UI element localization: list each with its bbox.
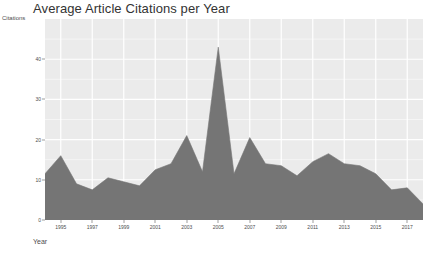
x-tick-mark — [281, 220, 282, 223]
plot-area — [45, 19, 423, 220]
y-tick-mark — [42, 139, 45, 140]
chart-figure: Average Article Citations per Year Citat… — [0, 0, 432, 259]
x-tick-mark — [218, 220, 219, 223]
x-tick-mark — [407, 220, 408, 223]
x-tick-label: 1995 — [55, 225, 66, 230]
x-axis-label: Year — [33, 238, 47, 245]
x-tick-mark — [375, 220, 376, 223]
y-tick-label: 10 — [35, 177, 41, 182]
x-tick-mark — [344, 220, 345, 223]
y-tick-label: 0 — [38, 218, 41, 223]
x-tick-label: 2009 — [276, 225, 287, 230]
x-tick-mark — [92, 220, 93, 223]
x-tick-mark — [123, 220, 124, 223]
x-tick-mark — [249, 220, 250, 223]
x-tick-mark — [60, 220, 61, 223]
x-tick-label: 2013 — [339, 225, 350, 230]
y-tick-mark — [42, 59, 45, 60]
x-tick-mark — [155, 220, 156, 223]
x-tick-mark — [186, 220, 187, 223]
x-tick-label: 2001 — [150, 225, 161, 230]
y-axis: 010203040 — [0, 19, 45, 220]
y-tick-label: 30 — [35, 97, 41, 102]
x-axis: 1995199719992001200320052007200920112013… — [45, 220, 423, 236]
chart-title: Average Article Citations per Year — [33, 1, 230, 16]
y-tick-mark — [42, 179, 45, 180]
x-tick-label: 2011 — [307, 225, 318, 230]
y-tick-label: 20 — [35, 137, 41, 142]
x-tick-label: 2017 — [402, 225, 413, 230]
x-tick-label: 2003 — [181, 225, 192, 230]
x-tick-label: 2007 — [244, 225, 255, 230]
y-tick-mark — [42, 99, 45, 100]
x-tick-label: 1999 — [118, 225, 129, 230]
x-tick-label: 2015 — [370, 225, 381, 230]
x-tick-label: 2005 — [213, 225, 224, 230]
area-series — [45, 19, 423, 220]
y-tick-label: 40 — [35, 57, 41, 62]
x-tick-label: 1997 — [87, 225, 98, 230]
x-tick-mark — [312, 220, 313, 223]
